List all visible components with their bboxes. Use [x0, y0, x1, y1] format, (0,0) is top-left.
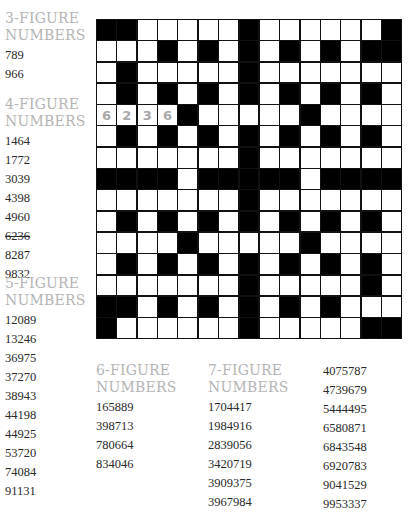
grid-cell[interactable]: [97, 233, 116, 253]
grid-cell[interactable]: [341, 148, 360, 168]
grid-cell[interactable]: 3: [138, 105, 157, 125]
grid-cell[interactable]: [341, 105, 360, 125]
grid-cell[interactable]: [219, 148, 238, 168]
grid-cell[interactable]: [321, 190, 340, 210]
grid-cell[interactable]: [341, 297, 360, 317]
grid-cell[interactable]: [178, 169, 197, 189]
grid-cell[interactable]: [301, 148, 320, 168]
grid-cell[interactable]: [138, 41, 157, 61]
grid-cell[interactable]: [362, 105, 381, 125]
grid-cell[interactable]: [382, 233, 401, 253]
grid-cell[interactable]: [117, 233, 136, 253]
grid-cell[interactable]: [219, 190, 238, 210]
grid-cell[interactable]: [280, 276, 299, 296]
grid-cell[interactable]: [321, 233, 340, 253]
grid-cell[interactable]: [178, 148, 197, 168]
grid-cell[interactable]: [362, 63, 381, 83]
grid-cell[interactable]: 6: [97, 105, 116, 125]
grid-cell[interactable]: [341, 63, 360, 83]
grid-cell[interactable]: [138, 276, 157, 296]
grid-cell[interactable]: [117, 318, 136, 338]
grid-cell[interactable]: [301, 20, 320, 40]
grid-cell[interactable]: [138, 297, 157, 317]
grid-cell[interactable]: [97, 84, 116, 104]
grid-cell[interactable]: [178, 20, 197, 40]
grid-cell[interactable]: [178, 190, 197, 210]
grid-cell[interactable]: [301, 318, 320, 338]
grid-cell[interactable]: [280, 105, 299, 125]
grid-cell[interactable]: [382, 212, 401, 232]
grid-cell[interactable]: [280, 20, 299, 40]
grid-cell[interactable]: [117, 148, 136, 168]
grid-cell[interactable]: [301, 297, 320, 317]
grid-cell[interactable]: [260, 105, 279, 125]
grid-cell[interactable]: [138, 63, 157, 83]
grid-cell[interactable]: [382, 126, 401, 146]
grid-cell[interactable]: [178, 254, 197, 274]
grid-cell[interactable]: [321, 276, 340, 296]
grid-cell[interactable]: [362, 190, 381, 210]
grid-cell[interactable]: [240, 105, 259, 125]
grid-cell[interactable]: [97, 41, 116, 61]
grid-cell[interactable]: [260, 233, 279, 253]
grid-cell[interactable]: [138, 190, 157, 210]
grid-cell[interactable]: [341, 190, 360, 210]
grid-cell[interactable]: [158, 148, 177, 168]
grid-cell[interactable]: [321, 148, 340, 168]
grid-cell[interactable]: [219, 63, 238, 83]
grid-cell[interactable]: [260, 63, 279, 83]
grid-cell[interactable]: [97, 276, 116, 296]
grid-cell[interactable]: [219, 297, 238, 317]
grid-cell[interactable]: [301, 190, 320, 210]
grid-cell[interactable]: [117, 190, 136, 210]
grid-cell[interactable]: [280, 190, 299, 210]
grid-cell[interactable]: [219, 254, 238, 274]
grid-cell[interactable]: [260, 297, 279, 317]
grid-cell[interactable]: [301, 63, 320, 83]
grid-cell[interactable]: [178, 63, 197, 83]
grid-cell[interactable]: [199, 63, 218, 83]
grid-cell[interactable]: [362, 297, 381, 317]
grid-cell[interactable]: [382, 190, 401, 210]
grid-cell[interactable]: [341, 41, 360, 61]
grid-cell[interactable]: [260, 148, 279, 168]
grid-cell[interactable]: [199, 20, 218, 40]
grid-cell[interactable]: [341, 276, 360, 296]
grid-cell[interactable]: [178, 212, 197, 232]
grid-cell[interactable]: 6: [158, 105, 177, 125]
grid-cell[interactable]: [341, 126, 360, 146]
grid-cell[interactable]: [219, 276, 238, 296]
grid-cell[interactable]: [199, 148, 218, 168]
grid-cell[interactable]: [321, 20, 340, 40]
grid-cell[interactable]: [382, 297, 401, 317]
grid-cell[interactable]: [382, 63, 401, 83]
grid-cell[interactable]: [199, 318, 218, 338]
grid-cell[interactable]: [117, 41, 136, 61]
grid-cell[interactable]: [341, 318, 360, 338]
grid-cell[interactable]: [382, 148, 401, 168]
grid-cell[interactable]: [138, 84, 157, 104]
grid-cell[interactable]: [97, 126, 116, 146]
grid-cell[interactable]: [199, 105, 218, 125]
grid-cell[interactable]: [341, 233, 360, 253]
grid-cell[interactable]: [240, 233, 259, 253]
grid-cell[interactable]: [97, 148, 116, 168]
grid-cell[interactable]: [138, 126, 157, 146]
grid-cell[interactable]: [158, 63, 177, 83]
grid-cell[interactable]: [158, 233, 177, 253]
grid-cell[interactable]: [158, 276, 177, 296]
grid-cell[interactable]: [301, 212, 320, 232]
grid-cell[interactable]: [260, 318, 279, 338]
grid-cell[interactable]: [382, 254, 401, 274]
grid-cell[interactable]: [138, 20, 157, 40]
grid-cell[interactable]: [138, 148, 157, 168]
grid-cell[interactable]: [178, 318, 197, 338]
grid-cell[interactable]: [199, 190, 218, 210]
grid-cell[interactable]: [178, 297, 197, 317]
grid-cell[interactable]: [280, 63, 299, 83]
grid-cell[interactable]: [301, 276, 320, 296]
grid-cell[interactable]: [138, 233, 157, 253]
grid-cell[interactable]: [138, 212, 157, 232]
grid-cell[interactable]: [97, 190, 116, 210]
grid-cell[interactable]: [321, 318, 340, 338]
